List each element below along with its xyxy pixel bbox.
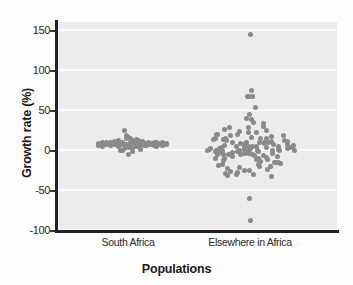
y-axis-tick [50,190,55,192]
data-point [225,173,230,178]
data-point [242,168,247,173]
data-point [130,149,135,154]
data-point [275,154,280,159]
data-point [228,133,233,138]
data-point [213,156,218,161]
data-point [248,32,253,37]
data-point [250,94,255,99]
category-label-2: Elsewhere in Africa [208,236,292,248]
chart-figure: 150100500-50-100 South AfricaElsewhere i… [0,0,353,285]
data-point [122,128,127,133]
data-point [251,172,256,177]
data-point [265,167,270,172]
data-point [251,120,256,125]
gridline [57,69,337,71]
category-label-1: South Africa [101,236,154,248]
data-point [269,174,274,179]
gridline [57,29,337,31]
y-axis-line [55,20,58,232]
plot-area [57,22,337,230]
y-axis-tick-label: -100 [8,224,50,236]
data-point [264,128,269,133]
data-point [248,218,253,223]
x-axis-line [55,230,339,233]
y-axis-tick [50,150,55,152]
data-point [238,152,243,157]
data-point [270,151,275,156]
data-point [234,172,239,177]
data-point [222,127,227,132]
y-axis-tick [50,70,55,72]
data-point [278,161,283,166]
data-point [254,130,259,135]
gridline [57,109,337,111]
x-axis-title: Populations [0,262,353,276]
y-axis-title: Growth rate (%) [20,48,34,218]
data-point [122,146,127,151]
y-axis-tick [50,230,55,232]
data-point [216,163,221,168]
data-point [265,157,270,162]
data-point [211,137,216,142]
data-point [227,125,232,130]
data-point [220,162,225,167]
data-point [164,142,169,147]
data-point [277,148,282,153]
data-point [272,160,277,165]
data-point [247,196,252,201]
data-point [230,154,235,159]
data-point [249,135,254,140]
gridline [57,189,337,191]
y-axis-tick [50,30,55,32]
y-axis-tick [50,110,55,112]
data-point [205,148,210,153]
data-point [271,142,276,147]
data-point [292,148,297,153]
data-point [246,94,251,99]
data-point [257,164,262,169]
y-axis-tick-label: 150 [8,24,50,36]
data-point [249,88,254,93]
